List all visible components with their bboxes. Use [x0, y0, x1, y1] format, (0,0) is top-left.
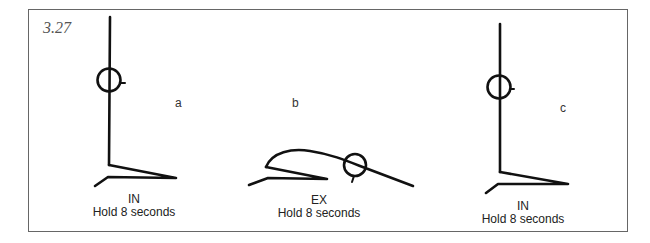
hold-label-c: Hold 8 seconds	[482, 213, 565, 226]
panel-letter-b: b	[292, 96, 299, 110]
legs-c	[486, 172, 568, 193]
hold-label-b: Hold 8 seconds	[278, 207, 361, 220]
caption-b: EX Hold 8 seconds	[278, 194, 361, 220]
legs-b	[249, 167, 327, 185]
hold-label-a: Hold 8 seconds	[93, 206, 176, 219]
caption-a: IN Hold 8 seconds	[93, 193, 176, 219]
panel-letter-a: a	[175, 96, 182, 110]
legs-a	[95, 165, 176, 186]
stick-figure-c	[486, 24, 568, 193]
back-curve-b	[266, 150, 413, 186]
stick-figure-a	[95, 17, 176, 186]
panel-letter-c: c	[560, 101, 566, 115]
caption-c: IN Hold 8 seconds	[482, 200, 565, 226]
stick-figure-b	[249, 150, 413, 186]
